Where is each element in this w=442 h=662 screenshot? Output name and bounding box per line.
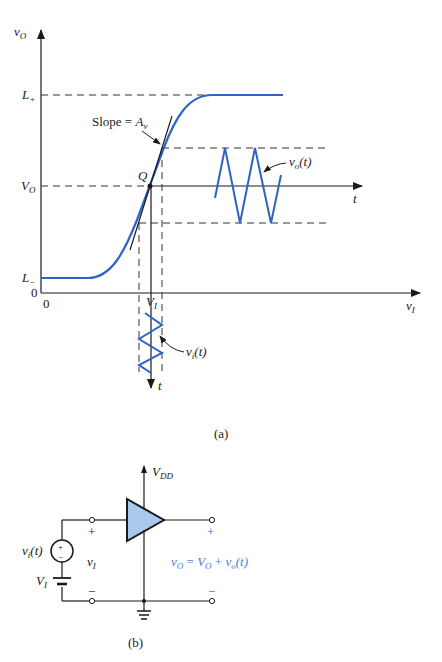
vi-bias-label: VI bbox=[146, 294, 158, 311]
amplifier-triangle bbox=[127, 499, 164, 541]
origin-y-label: 0 bbox=[31, 285, 38, 300]
source-plus-sign: + bbox=[58, 542, 63, 552]
x-axis-label: vI bbox=[406, 298, 416, 315]
input-voltage-label: vI bbox=[87, 554, 97, 571]
transfer-characteristic-plot: vO L+ VO L− 0 0 vI Slope = Av Q VI vo(t)… bbox=[14, 24, 420, 441]
output-signal-pointer bbox=[264, 163, 286, 172]
slope-label: Slope = Av bbox=[92, 114, 147, 131]
l-plus-label: L+ bbox=[21, 87, 35, 104]
output-terminal-plus[interactable] bbox=[209, 517, 214, 522]
input-plus-label: + bbox=[88, 524, 95, 539]
slope-pointer-arrow bbox=[142, 131, 160, 144]
amplifier-transfer-diagram: vO L+ VO L− 0 0 vI Slope = Av Q VI vo(t)… bbox=[0, 0, 442, 662]
output-signal-label: vo(t) bbox=[289, 154, 312, 171]
input-terminal-plus[interactable] bbox=[89, 517, 94, 522]
vdd-label: VDD bbox=[152, 464, 173, 481]
battery-label: VI bbox=[36, 573, 48, 590]
output-time-label: t bbox=[353, 191, 357, 206]
output-terminal-minus[interactable] bbox=[209, 598, 214, 603]
vo-level-label: VO bbox=[21, 178, 36, 195]
source-label: vi(t) bbox=[22, 543, 43, 560]
output-equation: vO = VO + vo(t) bbox=[171, 554, 248, 571]
q-label: Q bbox=[138, 168, 148, 183]
input-terminal-minus[interactable] bbox=[89, 598, 94, 603]
input-signal-pointer bbox=[160, 336, 184, 352]
origin-x-label: 0 bbox=[43, 296, 50, 311]
amplifier-circuit: VDD + − vi(t) VI + − vI + − bbox=[22, 464, 248, 650]
y-axis-label: vO bbox=[14, 24, 27, 41]
input-minus-label: − bbox=[88, 584, 95, 599]
output-plus-label: + bbox=[207, 524, 214, 539]
caption-a: (a) bbox=[214, 426, 228, 441]
caption-b: (b) bbox=[128, 635, 143, 650]
output-minus-label: − bbox=[208, 584, 215, 599]
input-signal-label: vi(t) bbox=[186, 344, 207, 361]
source-minus-sign: − bbox=[58, 552, 63, 562]
input-time-label: t bbox=[158, 378, 162, 393]
q-operating-point bbox=[148, 184, 153, 189]
